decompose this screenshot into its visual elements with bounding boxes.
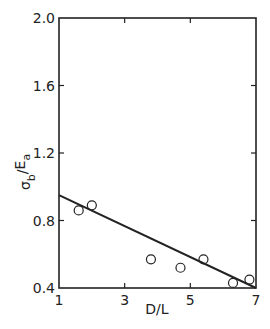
- chart: 13570.40.81.21.62.0 D/L σb/Ea: [0, 0, 270, 329]
- x-tick-label: 5: [186, 292, 195, 308]
- y-tick-label: 0.4: [33, 280, 55, 296]
- y-tick-label: 1.6: [33, 78, 55, 94]
- y-label-sub-b: b: [25, 174, 38, 181]
- axis-ticks: 13570.40.81.21.62.0: [33, 10, 261, 308]
- x-tick-label: 7: [252, 292, 261, 308]
- y-label-sigma: σ: [17, 181, 33, 190]
- x-axis-label: D/L: [145, 301, 168, 317]
- data-point-circle: [74, 206, 83, 215]
- data-point-circle: [176, 263, 185, 272]
- plot-border: [59, 18, 256, 288]
- data-point-circle: [229, 278, 238, 287]
- y-label-sub-a: a: [20, 154, 33, 161]
- fit-line: [59, 195, 256, 288]
- y-tick-label: 1.2: [33, 145, 55, 161]
- data-point-circle: [146, 255, 155, 264]
- x-tick-label: 3: [120, 292, 129, 308]
- x-tick-label: 1: [55, 292, 64, 308]
- y-label-E: E: [12, 161, 28, 170]
- y-tick-label: 2.0: [33, 10, 55, 26]
- plot-frame: [59, 18, 256, 288]
- y-tick-label: 0.8: [33, 213, 55, 229]
